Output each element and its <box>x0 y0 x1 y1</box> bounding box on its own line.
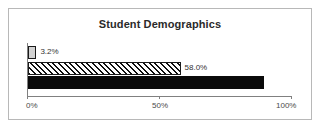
bar-series-2[interactable] <box>28 62 181 75</box>
bar-series-3[interactable] <box>28 76 264 89</box>
x-axis-tick-100 <box>291 96 292 99</box>
bar-series-1[interactable] <box>28 46 36 59</box>
chart-title: Student Demographics <box>9 18 311 30</box>
x-axis-tick-0 <box>27 96 28 99</box>
plot-area: 0% 50% 100% 3.2% 58.0% 89.7% <box>28 43 291 96</box>
x-axis-tick-label-100: 100% <box>276 101 296 110</box>
bar-value-label: 3.2% <box>40 47 58 56</box>
x-axis-tick-label-50: 50% <box>152 101 168 110</box>
x-axis-tick-label-0: 0% <box>26 101 38 110</box>
x-axis-tick-50 <box>159 96 160 99</box>
bar-value-label: 58.0% <box>185 63 208 72</box>
chart-frame: Student Demographics 0% 50% 100% 3.2% 58… <box>8 8 312 120</box>
